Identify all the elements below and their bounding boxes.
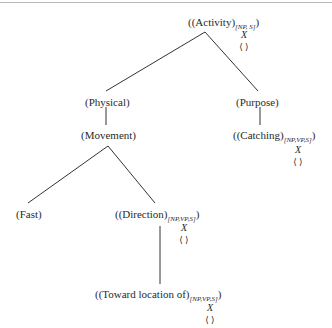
node-toward-empty: ⟨ ⟩ xyxy=(203,315,217,325)
node-activity-label: ((Activity) xyxy=(188,16,235,28)
node-catching-close: ) xyxy=(312,129,316,141)
node-physical: (Physical) xyxy=(85,96,130,108)
node-catching-empty: ⟨ ⟩ xyxy=(291,157,305,167)
node-toward-close: ) xyxy=(218,288,222,300)
node-activity-empty: ⟨ ⟩ xyxy=(237,42,251,52)
edge-movement-fast xyxy=(28,146,108,203)
node-toward-mark: X xyxy=(203,303,217,313)
node-toward-label: ((Toward location of) xyxy=(95,288,190,300)
edge-activity-purpose xyxy=(205,32,258,91)
node-direction-label: ((Direction) xyxy=(115,208,168,220)
node-direction-mark: X xyxy=(177,223,191,233)
node-catching-label: ((Catching) xyxy=(233,129,284,141)
node-toward-subscript: [NP,VP,S] xyxy=(190,295,218,303)
node-fast: (Fast) xyxy=(16,208,42,220)
edge-activity-physical xyxy=(106,32,205,91)
tree-edges xyxy=(0,0,332,328)
node-catching-subscript: [NP,VP,S] xyxy=(284,136,312,144)
node-purpose: (Purpose) xyxy=(236,96,279,108)
node-direction-empty: ⟨ ⟩ xyxy=(177,235,191,245)
node-movement: (Movement) xyxy=(81,129,136,141)
node-catching-mark: X xyxy=(291,145,305,155)
node-activity-mark: X xyxy=(237,30,251,40)
edge-movement-direction xyxy=(108,146,155,203)
node-catching: ((Catching)[NP,VP,S]) xyxy=(233,129,316,146)
node-activity-close: ) xyxy=(256,16,260,28)
node-direction-close: ) xyxy=(196,208,200,220)
